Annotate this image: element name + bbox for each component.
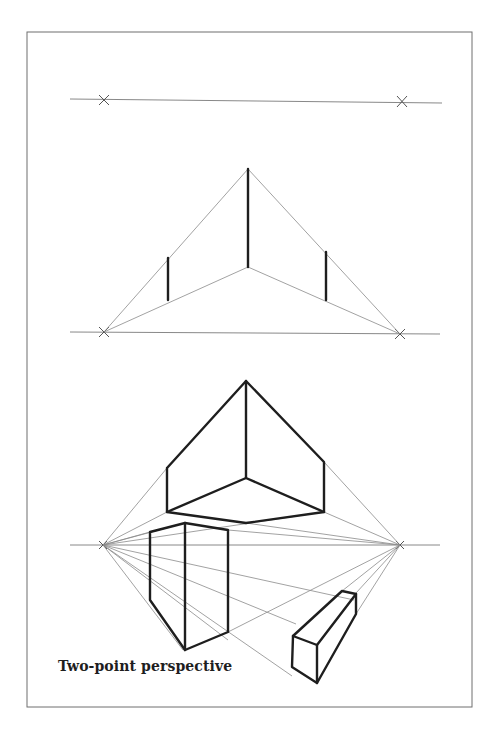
panel-boxes (70, 381, 440, 683)
horizon-line (70, 99, 442, 103)
vanishing-point-right-icon (397, 96, 407, 107)
panel-horizon (70, 95, 442, 107)
perspective-diagram (0, 0, 492, 734)
vanishing-point-left-icon (99, 95, 109, 105)
figure-caption: Two-point perspective (58, 658, 232, 674)
box-above-horizon (167, 381, 324, 523)
horizon-line (70, 332, 440, 334)
figure-frame (27, 32, 472, 707)
panel-vertical-edges (70, 169, 440, 339)
low-box-below-horizon (292, 591, 356, 683)
